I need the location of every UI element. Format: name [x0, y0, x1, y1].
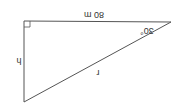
angle-label: 30° — [140, 26, 154, 36]
top-side-label: 80 m — [84, 10, 104, 20]
left-side-label: h — [16, 56, 21, 66]
right-angle-marker — [24, 21, 30, 27]
hypotenuse-label: r — [97, 68, 100, 78]
right-triangle-diagram: 80 m 30° h r — [0, 0, 181, 111]
